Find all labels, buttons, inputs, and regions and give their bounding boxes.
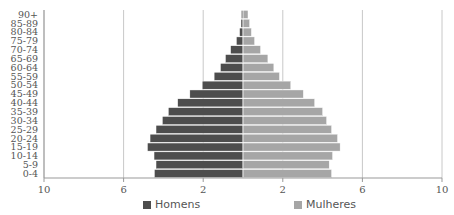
bar-homens-40-44 — [178, 99, 243, 107]
bar-mulheres-70-74 — [243, 46, 261, 54]
legend-label-homens: Homens — [155, 198, 200, 211]
bar-homens-0-4 — [154, 170, 243, 178]
bar-homens-65-69 — [225, 55, 243, 63]
x-tick-label-5: 10 — [436, 184, 449, 195]
y-label-90+: 90+ — [18, 9, 38, 20]
bar-mulheres-25-29 — [243, 125, 332, 133]
bar-mulheres-40-44 — [243, 99, 315, 107]
bar-homens-5-9 — [156, 161, 243, 169]
x-tick-label-3: 2 — [280, 184, 286, 195]
bar-homens-15-19 — [147, 143, 243, 151]
bar-mulheres-10-14 — [243, 152, 333, 160]
legend-item-mulheres: Mulheres — [294, 198, 356, 211]
legend-label-mulheres: Mulheres — [306, 198, 356, 211]
bar-mulheres-90+ — [243, 10, 248, 18]
bar-homens-45-49 — [190, 90, 243, 98]
legend-item-homens: Homens — [143, 198, 200, 211]
bar-mulheres-85-89 — [243, 19, 250, 27]
bar-homens-35-39 — [168, 108, 243, 116]
bar-mulheres-45-49 — [243, 90, 303, 98]
bar-homens-70-74 — [231, 46, 243, 54]
bar-homens-20-24 — [150, 134, 243, 142]
bar-homens-50-54 — [202, 81, 243, 89]
bar-mulheres-50-54 — [243, 81, 291, 89]
bars — [147, 10, 340, 177]
bar-mulheres-15-19 — [243, 143, 340, 151]
x-ticks: 10622610 — [38, 178, 449, 195]
bar-homens-60-64 — [221, 63, 243, 71]
bar-homens-55-59 — [214, 72, 243, 80]
bar-homens-25-29 — [156, 125, 243, 133]
bar-mulheres-35-39 — [243, 108, 323, 116]
bar-mulheres-0-4 — [243, 170, 332, 178]
y-category-labels: 0-45-910-1415-1920-2425-2930-3435-3940-4… — [11, 9, 38, 179]
x-tick-label-4: 6 — [359, 184, 365, 195]
bar-homens-30-34 — [162, 117, 243, 125]
bar-mulheres-20-24 — [243, 134, 338, 142]
bar-mulheres-75-79 — [243, 37, 255, 45]
legend-swatch-mulheres — [294, 201, 302, 209]
x-tick-label-0: 10 — [38, 184, 51, 195]
x-tick-label-1: 6 — [120, 184, 126, 195]
bar-homens-85-89 — [241, 19, 243, 27]
bar-mulheres-65-69 — [243, 55, 268, 63]
legend-swatch-homens — [143, 201, 151, 209]
x-tick-label-2: 2 — [200, 184, 206, 195]
bar-mulheres-60-64 — [243, 63, 274, 71]
bar-mulheres-30-34 — [243, 117, 327, 125]
bar-mulheres-80-84 — [243, 28, 251, 36]
bar-homens-80-84 — [240, 28, 243, 36]
bar-mulheres-5-9 — [243, 161, 329, 169]
bar-homens-75-79 — [236, 37, 243, 45]
population-pyramid-chart: 10622610 0-45-910-1415-1920-2425-2930-34… — [0, 0, 454, 215]
bar-homens-10-14 — [154, 152, 243, 160]
bar-mulheres-55-59 — [243, 72, 279, 80]
